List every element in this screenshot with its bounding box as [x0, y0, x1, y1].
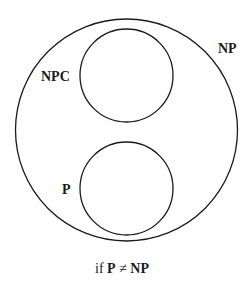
npc-set-circle: [80, 29, 173, 122]
caption-left-class: P: [107, 261, 116, 276]
p-label: P: [62, 182, 71, 197]
npc-label: NPC: [41, 69, 70, 84]
caption-not-equal-symbol: ≠: [119, 261, 127, 276]
p-set-circle: [80, 142, 173, 235]
caption: if P ≠ NP: [95, 261, 149, 276]
np-label: NP: [218, 41, 237, 56]
caption-prefix: if: [95, 261, 104, 276]
caption-right-class: NP: [130, 261, 149, 276]
complexity-classes-diagram: NP NPC P if P ≠ NP: [0, 0, 249, 291]
np-set-circle: [16, 19, 238, 241]
